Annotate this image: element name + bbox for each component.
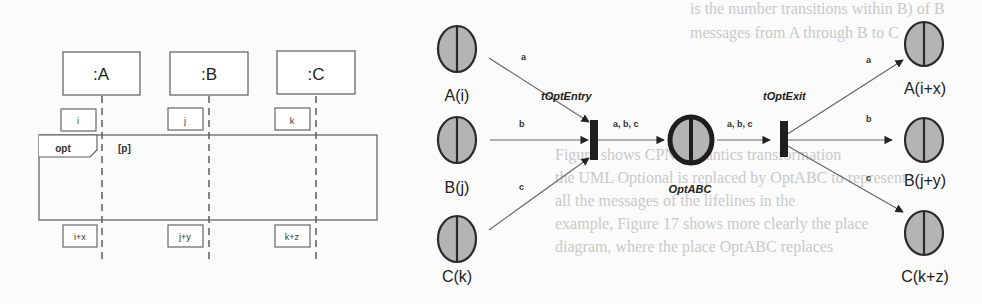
place-c-k [438,216,476,262]
svg-text:k: k [290,116,295,126]
place-a-ix [905,22,943,66]
place-label-a-i: A(i) [445,87,470,104]
place-label-c-k: C(k) [442,268,472,285]
svg-text:example, Figure 17 shows more: example, Figure 17 shows more clearly th… [555,215,869,233]
place-c-kz [905,211,943,255]
svg-text:b: b [519,119,525,129]
diagram-canvas: is the number transitions within B) of B… [0,0,982,304]
place-label-opt-abc: OptABC [669,183,713,195]
sequence-diagram: :A :B :C i j k opt [p] i+x j+y k+z [39,51,377,262]
svg-text:is the number transitions with: is the number transitions within B) of B [690,0,945,18]
place-a-i [438,26,476,72]
transition-opt-exit [780,121,788,157]
svg-text:a, b, c: a, b, c [613,119,639,129]
svg-text:a: a [866,55,872,65]
place-b-j [438,117,476,163]
fragment-guard: [p] [118,143,131,154]
place-opt-abc [670,117,712,163]
svg-text:b: b [866,114,872,124]
place-label-b-j: B(j) [445,179,470,196]
place-label-b-jy: B(j+y) [904,172,946,189]
svg-text:i: i [77,116,79,126]
svg-text:c: c [866,173,871,183]
svg-text:messages from A through B to C: messages from A through B to C [690,24,899,42]
transition-label-entry: tOptEntry [541,90,593,102]
svg-text:c: c [519,182,524,192]
fragment-operator: opt [55,143,71,154]
svg-text:j+y: j+y [178,232,191,242]
lifeline-label-b: :B [201,65,217,84]
svg-text:i+x: i+x [74,232,86,242]
svg-text:a: a [521,52,527,62]
lifeline-label-c: :C [308,65,325,84]
place-label-a-ix: A(i+x) [904,80,946,97]
place-label-c-kz: C(k+z) [901,268,949,285]
svg-text:diagram, where the place OptAB: diagram, where the place OptABC replaces [555,238,833,256]
transition-opt-entry [590,120,598,160]
lifeline-label-a: :A [93,65,110,84]
svg-text:a, b, c: a, b, c [727,119,753,129]
transition-label-exit: tOptExit [763,90,807,102]
svg-text:k+z: k+z [285,232,300,242]
svg-text:j: j [183,116,186,126]
place-b-jy [905,118,943,162]
